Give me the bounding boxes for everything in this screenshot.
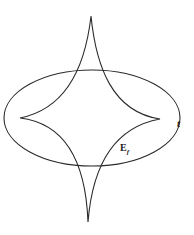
diagram-canvas: t Ef [0, 0, 194, 235]
astroid-label: Ef [120, 142, 130, 156]
astroid-label-subscript: f [127, 148, 130, 156]
astroid-curve [20, 16, 160, 222]
